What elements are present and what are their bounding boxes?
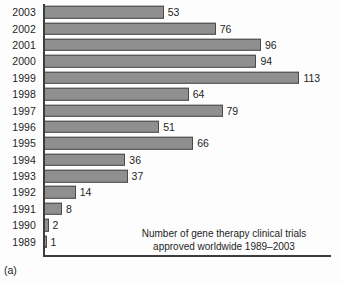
bar xyxy=(44,121,159,134)
bar xyxy=(44,55,256,68)
bar-group: 64 xyxy=(44,88,204,101)
bar-value-label: 37 xyxy=(132,171,144,182)
bar-value-label: 36 xyxy=(129,154,141,165)
chart-row: 200094 xyxy=(0,53,341,69)
year-axis-label: 1996 xyxy=(0,121,36,133)
year-axis-label: 1991 xyxy=(0,203,36,215)
bar-value-label: 76 xyxy=(220,23,232,34)
bar-value-label: 1 xyxy=(51,236,57,247)
bar-value-label: 64 xyxy=(193,89,205,100)
bar-value-label: 66 xyxy=(197,138,209,149)
bar xyxy=(44,22,216,35)
chart-caption: Number of gene therapy clinical trials a… xyxy=(118,228,330,253)
bar xyxy=(44,203,62,216)
year-axis-label: 1992 xyxy=(0,186,36,198)
caption-line-1: Number of gene therapy clinical trials xyxy=(118,228,330,241)
bar-group: 37 xyxy=(44,170,143,183)
chart-row: 199436 xyxy=(0,152,341,168)
chart-row: 1999113 xyxy=(0,70,341,86)
bar-group: 76 xyxy=(44,22,231,35)
bar-value-label: 8 xyxy=(66,204,72,215)
bar-group: 96 xyxy=(44,39,277,52)
chart-row: 200276 xyxy=(0,20,341,36)
chart-row: 199651 xyxy=(0,119,341,135)
bar xyxy=(44,72,299,85)
year-axis-label: 1995 xyxy=(0,137,36,149)
chart-row: 199566 xyxy=(0,135,341,151)
bar xyxy=(44,153,125,166)
bar-group: 94 xyxy=(44,55,272,68)
x-axis-line xyxy=(43,255,331,257)
bar-group: 2 xyxy=(44,219,58,232)
year-axis-label: 1989 xyxy=(0,236,36,248)
chart-row: 199779 xyxy=(0,102,341,118)
bar-group: 1 xyxy=(44,235,56,248)
plot-area: 2003532002762001962000941999113199864199… xyxy=(0,4,341,258)
chart-row: 199337 xyxy=(0,168,341,184)
year-axis-label: 2002 xyxy=(0,23,36,35)
bar-group: 14 xyxy=(44,186,91,199)
panel-letter: (a) xyxy=(4,264,17,276)
year-axis-label: 2001 xyxy=(0,39,36,51)
chart-row: 199214 xyxy=(0,184,341,200)
year-axis-label: 1993 xyxy=(0,170,36,182)
year-axis-label: 1999 xyxy=(0,72,36,84)
bar-value-label: 2 xyxy=(53,220,59,231)
bar-group: 113 xyxy=(44,72,320,85)
bar xyxy=(44,104,223,117)
bar-value-label: 113 xyxy=(303,73,320,84)
y-axis-line xyxy=(43,4,45,256)
bar xyxy=(44,6,164,19)
bar-value-label: 14 xyxy=(80,187,92,198)
year-axis-label: 1994 xyxy=(0,154,36,166)
bar xyxy=(44,39,261,52)
year-axis-label: 2003 xyxy=(0,6,36,18)
chart-row: 19918 xyxy=(0,201,341,217)
chart-row: 200353 xyxy=(0,4,341,20)
bar-group: 66 xyxy=(44,137,209,150)
bar xyxy=(44,170,128,183)
chart-row: 199864 xyxy=(0,86,341,102)
bar-value-label: 53 xyxy=(168,7,180,18)
bar-group: 79 xyxy=(44,104,238,117)
bar-value-label: 96 xyxy=(265,40,277,51)
bar-value-label: 94 xyxy=(260,56,272,67)
year-axis-label: 1998 xyxy=(0,88,36,100)
caption-line-2: approved worldwide 1989–2003 xyxy=(118,241,330,254)
bar xyxy=(44,137,193,150)
bar xyxy=(44,219,49,232)
year-axis-label: 2000 xyxy=(0,55,36,67)
bar-group: 36 xyxy=(44,153,141,166)
chart-row: 200196 xyxy=(0,37,341,53)
bar-group: 8 xyxy=(44,203,72,216)
bar-group: 53 xyxy=(44,6,179,19)
bar-chart-figure: 2003532002762001962000941999113199864199… xyxy=(0,0,341,284)
bar-value-label: 79 xyxy=(227,105,239,116)
bar-value-label: 51 xyxy=(163,122,175,133)
year-axis-label: 1990 xyxy=(0,219,36,231)
bar xyxy=(44,186,76,199)
bar-group: 51 xyxy=(44,121,175,134)
year-axis-label: 1997 xyxy=(0,105,36,117)
bar xyxy=(44,88,189,101)
